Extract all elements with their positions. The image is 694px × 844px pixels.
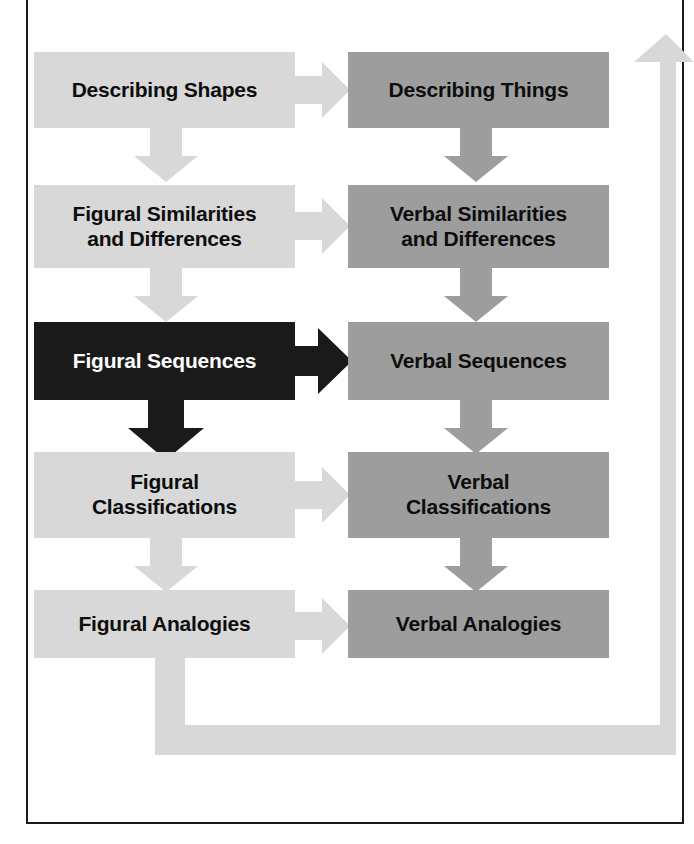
node-label-block: Verbal Classifications bbox=[406, 470, 551, 520]
node-label-line-2: Classifications bbox=[92, 495, 237, 520]
node-figural-similarities-differences[interactable]: Figural Similarities and Differences bbox=[34, 185, 295, 268]
node-label-line-2: and Differences bbox=[390, 227, 567, 252]
node-label-line-2: and Differences bbox=[73, 227, 257, 252]
arrow-figural-3-to-figural-4 bbox=[128, 400, 204, 460]
arrow-figural-5-to-verbal-5 bbox=[295, 598, 350, 654]
node-verbal-similarities-differences[interactable]: Verbal Similarities and Differences bbox=[348, 185, 609, 268]
arrow-verbal-4-to-verbal-5 bbox=[444, 538, 508, 592]
node-verbal-analogies[interactable]: Verbal Analogies bbox=[348, 590, 609, 658]
node-label-line-2: Classifications bbox=[406, 495, 551, 520]
arrow-figural-4-to-verbal-4 bbox=[295, 467, 350, 523]
node-label: Figural Analogies bbox=[78, 612, 250, 637]
node-verbal-classifications[interactable]: Verbal Classifications bbox=[348, 452, 609, 538]
arrow-figural-2-to-figural-3 bbox=[134, 268, 198, 322]
node-label: Describing Things bbox=[389, 78, 569, 103]
arrow-verbal-1-to-verbal-2 bbox=[444, 128, 508, 182]
node-label-block: Verbal Similarities and Differences bbox=[390, 202, 567, 252]
node-label-line-1: Figural bbox=[92, 470, 237, 495]
node-verbal-sequences[interactable]: Verbal Sequences bbox=[348, 322, 609, 400]
arrow-verbal-2-to-verbal-3 bbox=[444, 268, 508, 322]
node-label-block: Figural Classifications bbox=[92, 470, 237, 520]
node-label-line-1: Verbal Similarities bbox=[390, 202, 567, 227]
node-figural-sequences[interactable]: Figural Sequences bbox=[34, 322, 295, 400]
node-label: Figural Sequences bbox=[73, 349, 256, 374]
arrow-figural-4-to-figural-5 bbox=[134, 538, 198, 592]
node-label-line-1: Figural Similarities bbox=[73, 202, 257, 227]
node-label-block: Figural Similarities and Differences bbox=[73, 202, 257, 252]
node-verbal-describing-things[interactable]: Describing Things bbox=[348, 52, 609, 128]
node-label: Verbal Sequences bbox=[390, 349, 567, 374]
arrow-figural-1-to-figural-2 bbox=[134, 128, 198, 182]
diagram-canvas: Describing Shapes Figural Similarities a… bbox=[0, 0, 694, 844]
arrow-verbal-3-to-verbal-4 bbox=[444, 400, 508, 454]
node-figural-classifications[interactable]: Figural Classifications bbox=[34, 452, 295, 538]
arrow-figural-1-to-verbal-1 bbox=[295, 62, 350, 118]
node-label: Verbal Analogies bbox=[396, 612, 561, 637]
node-figural-analogies[interactable]: Figural Analogies bbox=[34, 590, 295, 658]
arrow-figural-3-to-verbal-3 bbox=[295, 328, 352, 394]
node-label-line-1: Verbal bbox=[406, 470, 551, 495]
arrow-figural-2-to-verbal-2 bbox=[295, 198, 350, 254]
node-figural-describing-shapes[interactable]: Describing Shapes bbox=[34, 52, 295, 128]
node-label: Describing Shapes bbox=[72, 78, 258, 103]
